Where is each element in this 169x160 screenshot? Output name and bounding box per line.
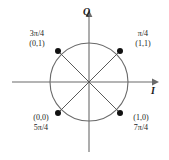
i-axis-label: I	[151, 86, 155, 96]
constellation-point-45[interactable]	[117, 48, 123, 54]
symbol-label-135: 3π/4 (0,1)	[16, 29, 58, 48]
symbol-label-225: (0,0) 5π/4	[20, 113, 62, 132]
qpsk-constellation-figure: Q I 3π/4 (0,1) π/4 (1,1) (0,0) 5π/4 (1,0…	[0, 0, 169, 160]
symbol-label-315-bits: (1,0)	[120, 113, 162, 123]
symbol-label-315-phase: 7π/4	[120, 123, 162, 133]
constellation-point-135[interactable]	[55, 48, 61, 54]
symbol-label-225-phase: 5π/4	[20, 123, 62, 133]
symbol-label-135-bits: (0,1)	[16, 39, 58, 49]
q-axis-label: Q	[83, 7, 90, 17]
symbol-label-45: π/4 (1,1)	[122, 29, 164, 48]
symbol-label-315: (1,0) 7π/4	[120, 113, 162, 132]
symbol-label-45-phase: π/4	[122, 29, 164, 39]
symbol-label-135-phase: 3π/4	[16, 29, 58, 39]
symbol-label-225-bits: (0,0)	[20, 113, 62, 123]
constellation-drawing	[0, 0, 169, 160]
symbol-label-45-bits: (1,1)	[122, 39, 164, 49]
